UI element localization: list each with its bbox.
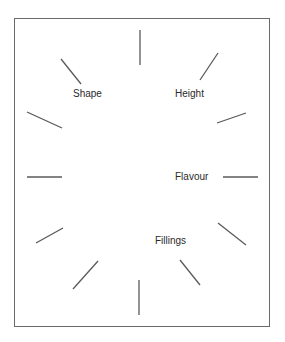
ray-line-10 — [27, 112, 62, 128]
radial-rays — [0, 0, 285, 342]
label-shape: Shape — [73, 88, 102, 100]
ray-line-1 — [200, 53, 218, 80]
ray-line-7 — [73, 261, 98, 289]
label-height: Height — [175, 88, 204, 100]
label-flavour: Flavour — [175, 171, 208, 183]
ray-line-2 — [217, 113, 246, 123]
label-fillings: Fillings — [155, 235, 186, 247]
diagram-canvas: Shape Height Flavour Fillings — [0, 0, 285, 342]
ray-line-11 — [61, 59, 81, 84]
ray-line-4 — [218, 223, 246, 245]
ray-line-8 — [36, 228, 63, 243]
ray-line-5 — [180, 260, 200, 285]
